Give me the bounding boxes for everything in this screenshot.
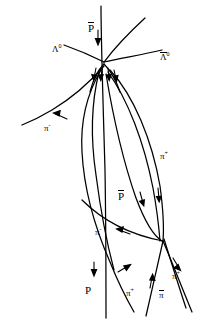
label-pi-bar-bottom-right-text: π xyxy=(159,290,164,300)
label-proton-bottom: P xyxy=(85,285,91,296)
arrow-proton-bottom xyxy=(91,262,96,276)
label-pi-bar-bottom-right: π xyxy=(159,290,164,300)
track-antiproton-beam xyxy=(101,6,106,318)
track-lambda0-left xyxy=(64,45,104,62)
label-pi-minus-left: π- xyxy=(44,124,51,133)
label-pi-plus-bottom-sup: + xyxy=(131,287,134,293)
label-pbar-mid: P xyxy=(118,190,124,202)
label-pi-minus-left-sup: - xyxy=(49,122,51,128)
track-pi-plus-inner xyxy=(108,72,160,241)
track-pi-plus-outer xyxy=(110,70,163,241)
arrow-pbar-mid-1 xyxy=(140,192,145,206)
label-pbar-mid-text: P xyxy=(118,190,124,202)
label-pbar-top: P xyxy=(88,22,94,34)
arrow-pi-minus-left xyxy=(53,111,67,119)
label-pi-minus-mid-sup: - xyxy=(100,226,102,232)
label-pi-plus-bottom-right: π+ xyxy=(172,272,180,281)
label-pi-plus-right-sup: + xyxy=(165,150,168,156)
label-pi-minus-mid: π- xyxy=(95,228,102,237)
label-lambda0bar-right-sup: 0 xyxy=(167,51,170,57)
label-lambda0-left-sup: 0 xyxy=(59,43,62,49)
arrow-pi-plus-bottom xyxy=(118,265,131,272)
label-proton-bottom-text: P xyxy=(85,284,91,296)
label-pi-plus-right: π+ xyxy=(160,152,168,161)
particle-track-canvas xyxy=(0,0,200,322)
label-lambda0-left: Λ0 xyxy=(52,45,62,54)
label-pi-plus-bottom: π+ xyxy=(126,289,134,298)
arrow-beam-top xyxy=(95,30,100,45)
label-pbar-top-text: P xyxy=(88,22,94,34)
label-lambda0bar-right: Λ0 xyxy=(160,52,170,62)
track-left-lobe xyxy=(82,70,134,312)
label-pi-plus-bottom-right-sup: + xyxy=(177,270,180,276)
bubble-chamber-diagram: P Λ0 Λ0 π- π+ P π- P π+ π+ π xyxy=(0,0,200,322)
